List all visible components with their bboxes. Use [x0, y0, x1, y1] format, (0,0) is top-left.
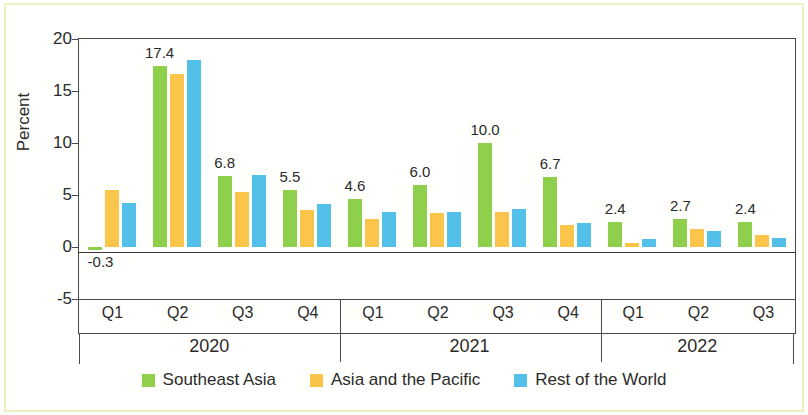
- y-axis-tick-label: 5: [32, 185, 72, 205]
- y-axis-tick-mark: [72, 247, 78, 248]
- bar-rest-of-the-world[interactable]: [252, 175, 266, 247]
- x-axis-quarter-label: Q3: [473, 304, 533, 322]
- y-axis-tick-mark: [72, 299, 78, 300]
- grouped-bar-chart: Percent 20151050-5 -0.317.46.85.54.66.01…: [0, 0, 808, 415]
- bar-southeast-asia[interactable]: [543, 177, 557, 247]
- y-axis-tick-labels: 20151050-5: [28, 0, 72, 415]
- bar-group: 6.7: [535, 39, 600, 299]
- y-axis-tick-label: 15: [32, 81, 72, 101]
- y-axis-tick-mark: [72, 195, 78, 196]
- y-axis-tick-label: 0: [32, 237, 72, 257]
- bar-rest-of-the-world[interactable]: [707, 231, 721, 247]
- bar-value-label: 2.7: [650, 197, 710, 214]
- bar-value-label: 6.7: [520, 155, 580, 172]
- bar-value-label: 17.4: [130, 44, 190, 61]
- bar-asia-and-the-pacific[interactable]: [495, 212, 509, 247]
- x-axis-quarter-label: Q1: [603, 304, 663, 322]
- bar-value-label: 10.0: [455, 121, 515, 138]
- x-axis-quarter-band: Q1Q2Q3Q4Q1Q2Q3Q4Q1Q2Q3: [78, 300, 796, 334]
- legend-item[interactable]: Rest of the World: [514, 370, 666, 390]
- bar-rest-of-the-world[interactable]: [122, 203, 136, 247]
- bar-rest-of-the-world[interactable]: [382, 212, 396, 247]
- y-axis-tick-label: -5: [32, 289, 72, 309]
- x-axis-quarter-label: Q4: [538, 304, 598, 322]
- bar-asia-and-the-pacific[interactable]: [625, 243, 639, 247]
- bar-asia-and-the-pacific[interactable]: [170, 74, 184, 247]
- bar-asia-and-the-pacific[interactable]: [105, 190, 119, 247]
- legend-label: Southeast Asia: [163, 370, 276, 390]
- x-axis-quarter-label: Q1: [343, 304, 403, 322]
- legend-label: Asia and the Pacific: [331, 370, 480, 390]
- bar-southeast-asia[interactable]: [673, 219, 687, 247]
- bar-asia-and-the-pacific[interactable]: [235, 192, 249, 247]
- bar-group: 2.4: [730, 39, 795, 299]
- bar-group: 6.0: [404, 39, 469, 299]
- chart-legend: Southeast AsiaAsia and the PacificRest o…: [0, 370, 808, 390]
- year-band-edge: [79, 334, 80, 364]
- bar-rest-of-the-world[interactable]: [642, 239, 656, 247]
- x-axis-quarter-label: Q4: [278, 304, 338, 322]
- bar-southeast-asia[interactable]: [413, 185, 427, 247]
- legend-swatch-icon: [142, 374, 155, 387]
- legend-label: Rest of the World: [535, 370, 666, 390]
- y-axis-tick-mark: [72, 91, 78, 92]
- bar-group: 5.5: [274, 39, 339, 299]
- bar-asia-and-the-pacific[interactable]: [755, 235, 769, 247]
- bar-southeast-asia[interactable]: [478, 143, 492, 247]
- bar-southeast-asia[interactable]: [283, 190, 297, 247]
- bar-asia-and-the-pacific[interactable]: [430, 213, 444, 247]
- y-axis-tick-mark: [72, 143, 78, 144]
- bar-rest-of-the-world[interactable]: [772, 238, 786, 247]
- bar-value-label: 4.6: [325, 177, 385, 194]
- bar-group: 2.4: [600, 39, 665, 299]
- x-axis-year-label: 2022: [637, 336, 757, 357]
- bar-asia-and-the-pacific[interactable]: [560, 225, 574, 247]
- bar-southeast-asia[interactable]: [88, 247, 102, 250]
- y-axis-tick-mark: [72, 39, 78, 40]
- bar-rest-of-the-world[interactable]: [577, 223, 591, 247]
- x-axis-quarter-label: Q3: [733, 304, 793, 322]
- y-axis-tick-label: 10: [32, 133, 72, 153]
- bar-value-label: 5.5: [260, 168, 320, 185]
- bar-value-label: 6.0: [390, 163, 450, 180]
- bar-rest-of-the-world[interactable]: [447, 212, 461, 247]
- bar-value-label: 6.8: [195, 154, 255, 171]
- bar-group: -0.3: [79, 39, 144, 299]
- bar-asia-and-the-pacific[interactable]: [690, 229, 704, 247]
- bar-value-label: 2.4: [715, 200, 775, 217]
- bar-southeast-asia[interactable]: [608, 222, 622, 247]
- plot-area: -0.317.46.85.54.66.010.06.72.42.72.4: [79, 39, 795, 299]
- bar-asia-and-the-pacific[interactable]: [365, 219, 379, 247]
- legend-swatch-icon: [514, 374, 527, 387]
- x-axis-year-label: 2020: [149, 336, 269, 357]
- bar-southeast-asia[interactable]: [153, 66, 167, 247]
- bar-value-label: 2.4: [585, 200, 645, 217]
- y-axis-tick-label: 20: [32, 29, 72, 49]
- x-axis-year-band: 202020212022: [78, 334, 796, 364]
- bar-southeast-asia[interactable]: [348, 199, 362, 247]
- legend-swatch-icon: [310, 374, 323, 387]
- legend-item[interactable]: Asia and the Pacific: [310, 370, 480, 390]
- x-axis-quarter-label: Q2: [408, 304, 468, 322]
- bar-southeast-asia[interactable]: [738, 222, 752, 247]
- bar-southeast-asia[interactable]: [218, 176, 232, 247]
- x-axis-quarter-label: Q2: [668, 304, 728, 322]
- x-axis-quarter-label: Q3: [213, 304, 273, 322]
- year-band-edge: [793, 334, 794, 364]
- x-axis-quarter-label: Q1: [83, 304, 143, 322]
- bar-asia-and-the-pacific[interactable]: [300, 210, 314, 247]
- x-axis-quarter-label: Q2: [148, 304, 208, 322]
- bar-rest-of-the-world[interactable]: [317, 204, 331, 247]
- bar-group: 2.7: [665, 39, 730, 299]
- bar-value-label: -0.3: [71, 253, 131, 270]
- x-axis-year-label: 2021: [410, 336, 530, 357]
- legend-item[interactable]: Southeast Asia: [142, 370, 276, 390]
- bar-rest-of-the-world[interactable]: [512, 209, 526, 247]
